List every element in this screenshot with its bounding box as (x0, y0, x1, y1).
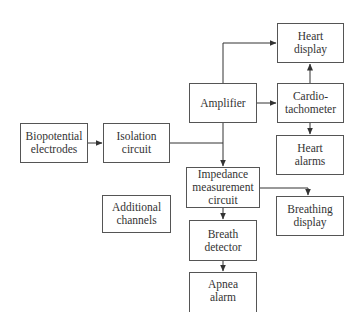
block-label: Heart alarms (295, 142, 326, 168)
block-label: Apnea alarm (208, 278, 238, 304)
block-label: Biopotential electrodes (26, 130, 83, 156)
block-label: Isolation circuit (116, 130, 156, 156)
block-label: Amplifier (200, 97, 245, 110)
block-label: Breath detector (204, 228, 241, 254)
biopotential-electrodes-block: Biopotential electrodes (20, 123, 88, 163)
impedance-measurement-block: Impedance measurement circuit (186, 167, 260, 208)
block-label: Heart display (294, 30, 327, 56)
isolation-circuit-block: Isolation circuit (103, 123, 170, 163)
cardiotachometer-block: Cardio- tachometer (277, 83, 344, 123)
block-label: Breathing display (287, 203, 332, 229)
breath-detector-block: Breath detector (189, 220, 257, 261)
block-label: Cardio- tachometer (285, 90, 336, 116)
heart-display-block: Heart display (277, 23, 344, 63)
additional-channels-block: Additional channels (102, 195, 171, 233)
heart-alarms-block: Heart alarms (276, 135, 344, 175)
apnea-alarm-block: Apnea alarm (189, 272, 257, 312)
block-label: Additional channels (112, 201, 161, 227)
arrow-impedance-to-breathing-display (260, 188, 308, 195)
breathing-display-block: Breathing display (276, 196, 344, 236)
block-label: Impedance measurement circuit (192, 168, 253, 207)
arrow-amplifier-to-heart-display (223, 43, 276, 83)
amplifier-block: Amplifier (189, 83, 257, 123)
